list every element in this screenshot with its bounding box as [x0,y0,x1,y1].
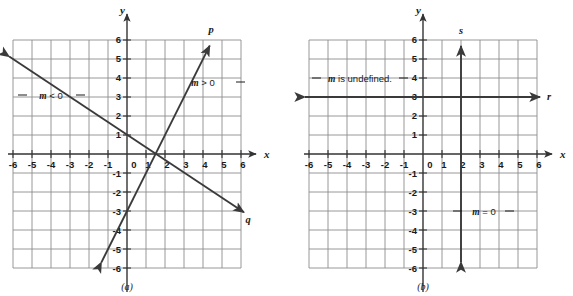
y-tick-label: 2 [116,110,121,121]
y-tick-label: 4 [116,72,122,83]
x-tick-label: -6 [9,159,17,170]
figure-background [0,0,573,296]
x-tick-label: -2 [381,159,389,170]
annot-pos-slope-rest: > 0 [199,77,215,88]
panel-b-y-axis-label: y [414,4,421,16]
x-tick-label: 3 [183,159,188,170]
svg-text:m is undefined.: m is undefined. [328,73,392,84]
x-tick-label: -5 [324,159,333,170]
x-tick-label: 1 [441,159,447,170]
x-tick-label: -4 [343,159,352,170]
x-tick-label: -3 [362,159,370,170]
x-tick-label: -1 [104,159,113,170]
y-tick-label: -3 [409,206,417,217]
annot-undefined-rest: is undefined. [335,73,392,84]
y-tick-label: 4 [412,72,418,83]
x-tick-label: 4 [202,159,208,170]
annot-zero-slope-rest: = 0 [480,206,496,217]
x-tick-label: -3 [66,159,74,170]
x-tick-label: -4 [47,159,56,170]
x-tick-label: 5 [517,159,523,170]
line-s-label: s [458,25,463,36]
x-tick-label: 6 [240,159,245,170]
y-tick-label: -4 [409,225,418,236]
svg-text:m < 0: m < 0 [39,90,63,101]
y-tick-label: -3 [113,206,121,217]
y-tick-label: 1 [412,129,418,140]
figure-canvas: -6 -5 -4 -3 -2 -1 0 1 2 3 4 5 6 6 5 4 3 … [0,0,573,296]
svg-text:m > 0: m > 0 [191,77,215,88]
x-tick-label: 3 [479,159,484,170]
annot-undefined-var: m [328,74,335,84]
line-q-label: q [245,214,250,225]
y-tick-label: 5 [412,53,418,64]
x-tick-label: -2 [85,159,93,170]
x-tick-label-origin: 0 [427,159,432,170]
y-tick-label: 3 [116,91,121,102]
y-tick-label: -2 [113,187,121,198]
y-tick-label: -1 [113,168,122,179]
y-tick-label: 6 [116,34,121,45]
y-tick-label: -5 [113,244,122,255]
x-tick-label: 4 [498,159,504,170]
annot-neg-slope-var: m [39,91,46,101]
y-tick-label: -2 [409,187,417,198]
y-tick-label: -6 [113,263,121,274]
x-tick-label: 6 [536,159,541,170]
svg-text:m = 0: m = 0 [472,206,496,217]
y-tick-label: -6 [409,263,417,274]
annot-zero-slope-var: m [472,207,479,217]
line-p-label: p [207,24,213,35]
panel-a-caption: (a) [121,281,133,293]
x-tick-label-origin: 0 [131,159,136,170]
panel-b-caption: (b) [417,281,429,293]
annot-pos-slope-var: m [191,78,198,88]
y-tick-label: 5 [116,53,122,64]
x-tick-label: 5 [221,159,227,170]
panel-a-y-axis-label: y [118,4,125,16]
x-tick-label: -1 [400,159,409,170]
y-tick-label: -1 [409,168,418,179]
annot-neg-slope-rest: < 0 [47,90,63,101]
panel-b-x-axis-label: x [559,148,566,160]
slope-illustration-figure: -6 -5 -4 -3 -2 -1 0 1 2 3 4 5 6 6 5 4 3 … [0,0,573,296]
x-tick-label: -6 [305,159,313,170]
y-tick-label: 6 [412,34,417,45]
y-tick-label: -5 [409,244,418,255]
y-tick-label: 2 [412,110,417,121]
panel-a-x-axis-label: x [263,148,270,160]
x-tick-label: -5 [28,159,37,170]
